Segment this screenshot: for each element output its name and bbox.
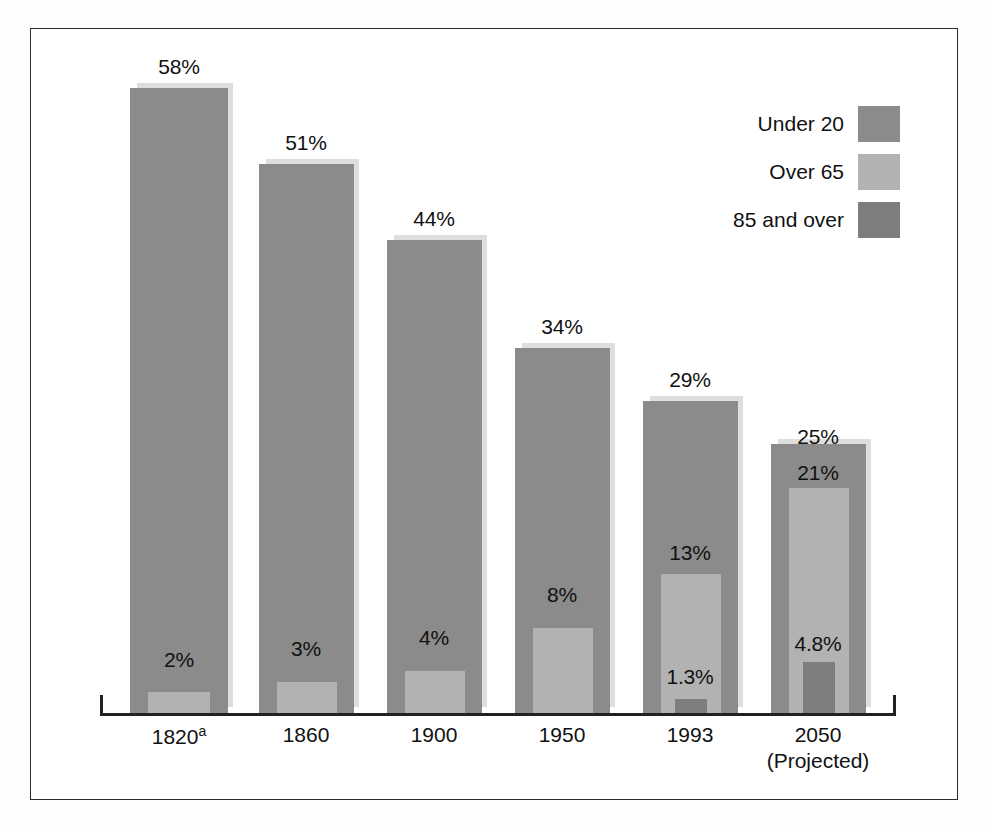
bar-label-under20-1860: 51%: [206, 131, 406, 155]
bar-label-under20-1820: 58%: [79, 55, 279, 79]
bar-over85-1993: [675, 699, 707, 714]
bar-label-over65-1993: 13%: [590, 541, 790, 565]
legend-swatch-over-65: [858, 154, 900, 190]
bar-label-over65-1950: 8%: [462, 583, 662, 607]
bar-label-over85-1993: 1.3%: [590, 665, 790, 689]
bar-label-over65-1900: 4%: [334, 626, 534, 650]
legend-item-85-and-over: 85 and over: [600, 199, 900, 240]
bar-over85-2050: [803, 662, 835, 714]
xtick-2050-projected: (Projected): [718, 749, 918, 773]
bar-over65-1860: [277, 682, 337, 714]
legend-item-over-65: Over 65: [600, 151, 900, 192]
legend: Under 20 Over 65 85 and over: [600, 103, 900, 247]
legend-label-85-and-over: 85 and over: [733, 208, 844, 232]
chart-figure: 58% 2% 51% 3% 44% 4% 34% 8% 29% 13%: [0, 0, 990, 830]
bar-over65-1950: [533, 628, 593, 714]
bar-label-under20-2050: 25%: [718, 425, 918, 449]
bar-label-over65-2050: 21%: [718, 461, 918, 485]
x-axis-left-cap: [100, 695, 103, 715]
bar-label-under20-1950: 34%: [462, 315, 662, 339]
legend-label-under-20: Under 20: [758, 112, 844, 136]
legend-swatch-under-20: [858, 106, 900, 142]
xtick-1820-label: 1820: [152, 725, 199, 748]
legend-label-over-65: Over 65: [769, 160, 844, 184]
bar-over65-1820: [148, 692, 210, 714]
bar-label-over85-2050: 4.8%: [718, 632, 918, 656]
xtick-1860-label: 1860: [283, 723, 330, 746]
legend-item-under-20: Under 20: [600, 103, 900, 144]
xtick-1993-label: 1993: [667, 723, 714, 746]
x-axis-right-cap: [893, 695, 896, 715]
x-axis-line: [100, 713, 896, 716]
xtick-1900-label: 1900: [411, 723, 458, 746]
bar-label-under20-1900: 44%: [334, 207, 534, 231]
bar-under20-1820: [130, 88, 228, 714]
xtick-1950-label: 1950: [539, 723, 586, 746]
bar-over65-1900: [405, 671, 465, 714]
bar-label-under20-1993: 29%: [590, 368, 790, 392]
legend-swatch-85-and-over: [858, 202, 900, 238]
plot-area: 58% 2% 51% 3% 44% 4% 34% 8% 29% 13%: [0, 0, 990, 830]
bar-over65-1993: [661, 574, 721, 714]
xtick-2050-label: 2050: [795, 723, 842, 746]
xtick-2050: 2050 (Projected): [718, 723, 918, 773]
